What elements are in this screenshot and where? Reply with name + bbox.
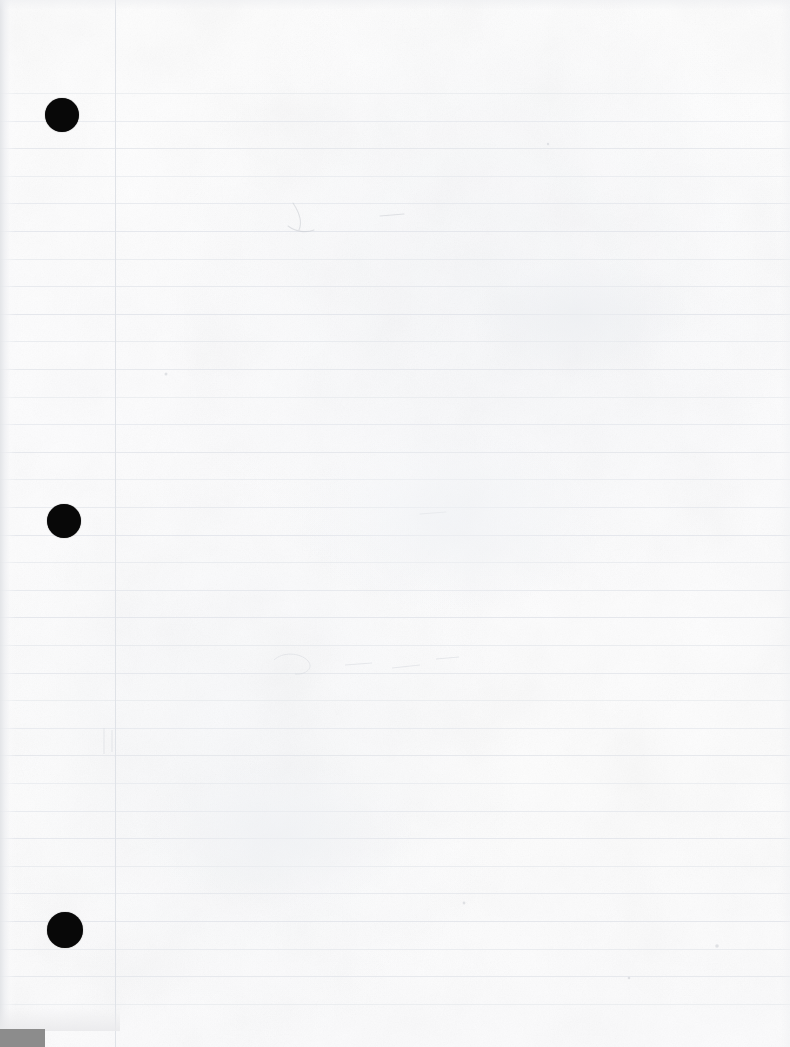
- paper-sheet: [0, 0, 790, 1047]
- scanned-page-canvas: [0, 0, 790, 1047]
- hole-punch-top: [45, 98, 79, 132]
- scanner-bar-fade: [0, 1007, 120, 1031]
- hole-punch-bottom: [47, 912, 83, 948]
- scanner-edge-bar: [0, 1029, 45, 1047]
- hole-punch-middle: [47, 504, 81, 538]
- margin-rule-line: [115, 0, 116, 1047]
